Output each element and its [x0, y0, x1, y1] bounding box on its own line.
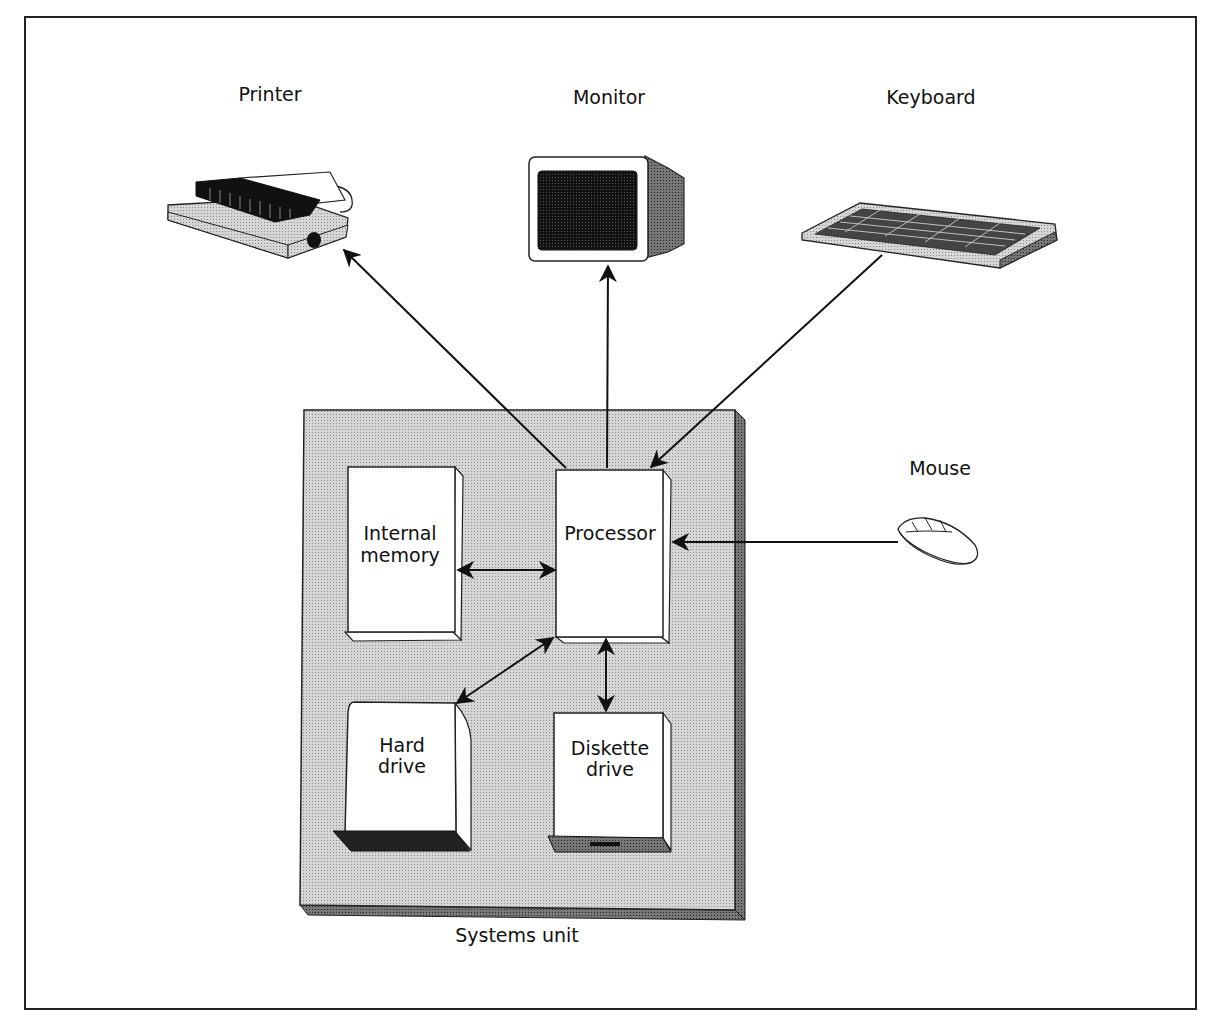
diskette-drive-label-line2: drive	[586, 758, 634, 780]
internal-memory-label-line2: memory	[360, 544, 439, 566]
processor-label: Processor	[564, 522, 656, 544]
internal-memory-box[interactable]: Internal memory	[345, 467, 463, 641]
keyboard-label: Keyboard	[886, 86, 975, 108]
systems-unit-label: Systems unit	[455, 924, 579, 946]
arrow-keyboard-to-processor	[651, 255, 882, 467]
arrow-processor-to-monitor	[607, 266, 608, 468]
printer-label: Printer	[238, 83, 301, 105]
monitor-label: Monitor	[573, 86, 645, 108]
monitor-icon[interactable]	[529, 156, 684, 261]
diskette-drive-label-line1: Diskette	[571, 737, 649, 759]
mouse-icon[interactable]	[898, 518, 978, 564]
printer-icon[interactable]	[168, 172, 352, 258]
diskette-drive-box[interactable]: Diskette drive	[548, 713, 671, 852]
keyboard-icon[interactable]	[802, 203, 1057, 268]
processor-box[interactable]: Processor	[556, 470, 671, 643]
mouse-label: Mouse	[909, 457, 971, 479]
hard-drive-label-line2: drive	[378, 755, 426, 777]
internal-memory-label-line1: Internal	[363, 522, 436, 544]
hard-drive-label-line1: Hard	[379, 734, 424, 756]
diagram-canvas: Internal memory Processor Hard drive Dis…	[0, 0, 1222, 1018]
hard-drive-box[interactable]: Hard drive	[333, 702, 471, 851]
